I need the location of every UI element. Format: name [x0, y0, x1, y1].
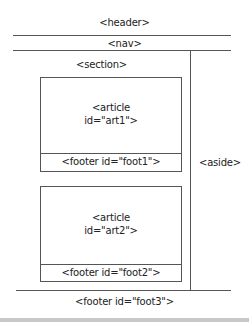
article-art2-label-line2: id="art2"> — [41, 225, 181, 237]
article-art2-footer-divider — [41, 264, 181, 265]
section-label: <section> — [13, 59, 190, 71]
article-art1-footer-divider — [41, 153, 181, 154]
nav-label: <nav> — [0, 38, 249, 50]
bottom-border-bar — [0, 318, 249, 322]
article-art1-label-line1: <article — [41, 102, 181, 114]
aside-label: <aside> — [191, 157, 249, 169]
article-art1: <article id="art1"> <footer id="foot1"> — [40, 77, 182, 172]
header-label: <header> — [0, 17, 249, 29]
page-footer-divider — [16, 290, 231, 291]
nav-divider — [13, 50, 231, 51]
aside-divider — [190, 50, 191, 290]
header-divider — [13, 35, 231, 36]
footer-foot1-label: <footer id="foot1"> — [41, 156, 181, 168]
article-art1-label-line2: id="art1"> — [41, 115, 181, 127]
article-art2: <article id="art2"> <footer id="foot2"> — [40, 186, 182, 282]
footer-foot3-label: <footer id="foot3"> — [0, 296, 249, 308]
article-art2-label-line1: <article — [41, 212, 181, 224]
footer-foot2-label: <footer id="foot2"> — [41, 267, 181, 279]
